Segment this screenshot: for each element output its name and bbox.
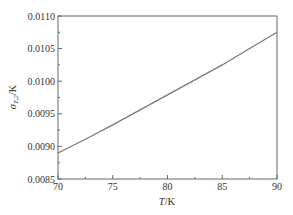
- x-axis-label: T/K: [159, 196, 176, 207]
- y-tick-label: 0.0100: [28, 76, 56, 87]
- y-axis-label: σT,2/K: [7, 84, 20, 109]
- y-tick-label: 0.0095: [28, 108, 56, 119]
- x-tick-label: 85: [217, 181, 227, 192]
- series-line-sigma_T2: [58, 32, 277, 153]
- series-layer: [58, 32, 277, 153]
- y-tick-label: 0.0110: [28, 11, 55, 22]
- x-tick-label: 75: [108, 181, 118, 192]
- x-tick-label: 90: [272, 181, 282, 192]
- y-tick-label: 0.0090: [28, 141, 56, 152]
- chart: 70758085900.00850.00900.00950.01000.0105…: [0, 0, 293, 215]
- plot-frame: [58, 16, 277, 179]
- y-tick-label: 0.0105: [28, 43, 56, 54]
- y-tick-label: 0.0085: [28, 174, 56, 185]
- x-tick-label: 80: [163, 181, 173, 192]
